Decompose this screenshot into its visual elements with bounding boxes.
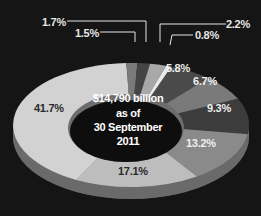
center-line-4: 2011	[117, 135, 140, 147]
center-line-3: 30 September	[94, 121, 164, 133]
label-41-7: 41.7%	[34, 102, 64, 114]
label-6-7: 6.7%	[193, 75, 217, 87]
label-17-1: 17.1%	[118, 165, 148, 177]
center-line-1: $14,790 billion	[93, 92, 164, 104]
label-0-8: 0.8%	[195, 29, 219, 41]
label-13-2: 13.2%	[186, 137, 216, 149]
donut-chart: $14,790 billion as of 30 September 2011 …	[0, 0, 261, 216]
label-1-5: 1.5%	[75, 27, 99, 39]
label-9-3: 9.3%	[207, 102, 231, 114]
center-line-2: as of	[116, 107, 141, 119]
label-5-8: 5.8%	[166, 62, 190, 74]
label-1-7: 1.7%	[42, 16, 66, 28]
label-2-2: 2.2%	[226, 18, 250, 30]
